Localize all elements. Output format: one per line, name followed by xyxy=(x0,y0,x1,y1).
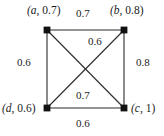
vertex-node-b xyxy=(121,27,128,34)
vertex-label-a-close: ) xyxy=(57,4,61,16)
vertex-label-b: (b, 0.8) xyxy=(110,5,144,17)
vertex-label-d: (d, 0.6) xyxy=(2,103,36,115)
vertex-node-d xyxy=(44,105,51,112)
edge-weight-d-c: 0.6 xyxy=(76,118,90,129)
fuzzy-graph-figure: (a, 0.7) (b, 0.8) (d, 0.6) (c, 1) 0.7 0.… xyxy=(0,0,164,136)
vertex-label-c: (c, 1) xyxy=(131,103,155,115)
vertex-label-a: (a, 0.7) xyxy=(27,5,61,17)
graph-canvas xyxy=(0,0,164,136)
vertex-label-a-value: 0.7 xyxy=(42,4,56,16)
edge-weight-a-c-diagonal: 0.7 xyxy=(76,90,90,101)
vertex-label-d-value: 0.6 xyxy=(17,102,31,114)
edge-weight-b-d-diagonal: 0.6 xyxy=(88,36,102,47)
vertex-label-c-close: ) xyxy=(151,102,155,114)
vertex-label-b-close: ) xyxy=(140,4,144,16)
vertex-node-a xyxy=(44,27,51,34)
vertex-label-b-value: 0.8 xyxy=(125,4,139,16)
vertex-node-c xyxy=(121,105,128,112)
edge-weight-b-c: 0.8 xyxy=(136,57,150,68)
edge-weight-a-d: 0.6 xyxy=(17,57,31,68)
edge-weight-a-b: 0.7 xyxy=(76,8,90,19)
vertex-label-d-close: ) xyxy=(32,102,36,114)
